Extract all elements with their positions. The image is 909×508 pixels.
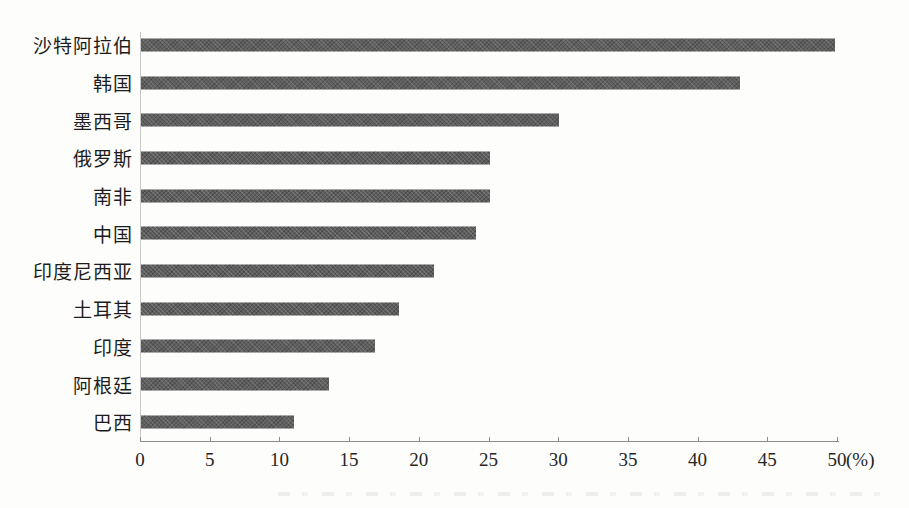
x-axis-tick [210, 437, 211, 442]
bar-track [140, 139, 839, 177]
bar-row: 南非 [0, 177, 880, 215]
category-label: 土耳其 [0, 295, 140, 322]
bar-row: 俄罗斯 [0, 139, 880, 177]
bar-rows: 沙特阿拉伯韩国墨西哥俄罗斯南非中国印度尼西亚土耳其印度阿根廷巴西 [0, 26, 880, 441]
x-axis-tick-label: 15 [340, 449, 359, 471]
category-label: 南非 [0, 182, 140, 209]
x-axis-tick-label: 40 [688, 449, 707, 471]
bar-row: 土耳其 [0, 290, 880, 328]
category-label: 韩国 [0, 69, 140, 96]
x-axis-tick [349, 437, 350, 442]
category-label: 墨西哥 [0, 107, 140, 134]
cropped-caption-remnant [278, 492, 883, 496]
bar-track [140, 26, 839, 64]
bar-row: 韩国 [0, 64, 880, 102]
category-label: 中国 [0, 220, 140, 247]
bar-track [140, 290, 839, 328]
category-label: 沙特阿拉伯 [0, 31, 140, 58]
bar-row: 中国 [0, 214, 880, 252]
x-axis-unit-label: (%) [846, 449, 874, 471]
x-axis-tick-label: 25 [479, 449, 498, 471]
x-axis-tick [489, 437, 490, 442]
bar-track [140, 64, 839, 102]
x-axis-tick [628, 437, 629, 442]
bar [141, 151, 490, 164]
bar [141, 189, 490, 202]
bar-track [140, 328, 839, 366]
bar-track [140, 177, 839, 215]
bar [141, 378, 329, 391]
bar [141, 415, 294, 428]
x-axis-tick [558, 437, 559, 442]
bar-row: 巴西 [0, 403, 880, 441]
x-axis-tick-label: 20 [409, 449, 428, 471]
category-label: 阿根廷 [0, 371, 140, 398]
category-label: 印度尼西亚 [0, 257, 140, 284]
bar-row: 印度 [0, 328, 880, 366]
x-axis-tick [767, 437, 768, 442]
x-axis-tick [419, 437, 420, 442]
bar-track [140, 214, 839, 252]
bar [141, 227, 476, 240]
bar-row: 沙特阿拉伯 [0, 26, 880, 64]
bar [141, 114, 559, 127]
category-label: 巴西 [0, 408, 140, 435]
bar-track [140, 403, 839, 441]
category-label: 印度 [0, 333, 140, 360]
bar [141, 264, 434, 277]
x-axis-tick-label: 45 [758, 449, 777, 471]
bar-track [140, 365, 839, 403]
bar [141, 302, 399, 315]
x-axis-tick-label: 30 [549, 449, 568, 471]
bar [141, 38, 835, 51]
x-axis-tick [279, 437, 280, 442]
x-axis-tick-label: 5 [205, 449, 215, 471]
x-axis-tick-label: 50 [828, 449, 847, 471]
bar-row: 印度尼西亚 [0, 252, 880, 290]
bar-track [140, 252, 839, 290]
x-axis-tick [837, 437, 838, 442]
bar-track [140, 101, 839, 139]
bar-row: 阿根廷 [0, 365, 880, 403]
bar-row: 墨西哥 [0, 101, 880, 139]
bar [141, 76, 740, 89]
category-label: 俄罗斯 [0, 144, 140, 171]
x-axis-tick-label: 35 [618, 449, 637, 471]
bar [141, 340, 375, 353]
x-axis-tick [698, 437, 699, 442]
x-axis-tick-label: 0 [135, 449, 145, 471]
x-axis: (%) 05101520253035404550 [140, 441, 839, 442]
x-axis-tick-label: 10 [270, 449, 289, 471]
x-axis-tick [140, 437, 141, 442]
bar-chart-figure: 沙特阿拉伯韩国墨西哥俄罗斯南非中国印度尼西亚土耳其印度阿根廷巴西 (%) 051… [0, 0, 909, 508]
